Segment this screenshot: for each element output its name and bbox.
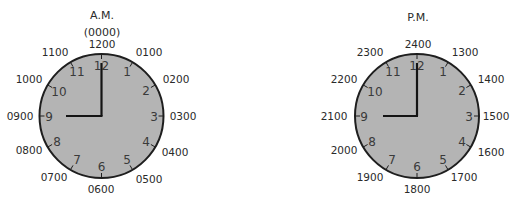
am-label-1: 0100: [136, 46, 163, 58]
am-label-10: 1000: [16, 73, 43, 85]
am-numeral-3: 3: [150, 110, 158, 124]
am-clock: A.M. (0000) 12 1 2 3 4 5 6 7: [7, 9, 197, 195]
pm-numeral-9: 9: [360, 110, 368, 124]
pm-numeral-11: 11: [385, 65, 400, 79]
pm-label-12: 2400: [405, 38, 432, 50]
am-numeral-10: 10: [51, 85, 66, 99]
pm-label-10: 2200: [331, 73, 358, 85]
pm-label-7: 1900: [357, 171, 384, 183]
pm-label-2: 1400: [478, 73, 505, 85]
pm-numeral-1: 1: [439, 65, 447, 79]
pm-label-5: 1700: [451, 171, 478, 183]
am-label-5: 0500: [136, 173, 163, 185]
pm-label-4: 1600: [478, 146, 505, 158]
am-numeral-1: 1: [123, 65, 131, 79]
am-label-9: 0900: [7, 110, 34, 122]
am-label-4: 0400: [162, 146, 189, 158]
pm-numeral-7: 7: [388, 153, 396, 167]
am-label-12: 1200: [89, 38, 116, 50]
pm-title: P.M.: [407, 11, 428, 24]
pm-label-6: 1800: [404, 183, 431, 195]
pm-label-3: 1500: [483, 110, 510, 122]
am-label-3: 0300: [170, 110, 197, 122]
pm-label-1: 1300: [452, 46, 479, 58]
pm-numeral-6: 6: [413, 160, 421, 174]
am-numeral-2: 2: [142, 84, 150, 98]
am-numeral-6: 6: [98, 160, 106, 174]
am-label-6: 0600: [88, 183, 115, 195]
pm-numeral-3: 3: [465, 110, 473, 124]
am-title: A.M.: [90, 9, 114, 22]
pm-numeral-5: 5: [439, 153, 447, 167]
pm-numeral-4: 4: [458, 135, 466, 149]
am-numeral-5: 5: [123, 153, 131, 167]
clock-diagram: A.M. (0000) 12 1 2 3 4 5 6 7: [0, 0, 510, 205]
am-label-11: 1100: [42, 46, 69, 58]
pm-label-9: 2100: [321, 110, 348, 122]
pm-numeral-10: 10: [367, 85, 382, 99]
am-numeral-9: 9: [45, 110, 53, 124]
am-numeral-7: 7: [73, 153, 81, 167]
pm-numeral-2: 2: [458, 84, 466, 98]
pm-numeral-8: 8: [368, 135, 376, 149]
am-label-8: 0800: [16, 144, 43, 156]
am-numeral-4: 4: [142, 135, 150, 149]
am-numeral-11: 11: [69, 65, 84, 79]
am-numeral-8: 8: [53, 135, 61, 149]
am-label-2: 0200: [163, 73, 190, 85]
pm-label-11: 2300: [357, 46, 384, 58]
pm-clock: P.M. 12 1 2 3 4 5 6 7 8 9 1: [321, 11, 510, 195]
pm-label-8: 2000: [331, 144, 358, 156]
am-label-7: 0700: [41, 171, 68, 183]
